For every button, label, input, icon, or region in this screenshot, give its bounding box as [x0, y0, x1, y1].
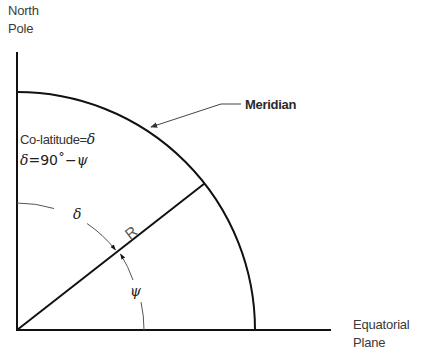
- colatitude-label: Co-latitude=δ: [20, 131, 95, 147]
- angle-delta-label: δ: [73, 206, 81, 222]
- equation-psi-symbol: ψ: [77, 152, 89, 168]
- radius-label: R: [121, 222, 140, 242]
- meridian-label: Meridian: [245, 97, 296, 112]
- delta-arc-lower: [87, 224, 116, 251]
- colatitude-symbol: δ: [87, 131, 95, 147]
- north-pole-label-2: Pole: [8, 21, 33, 36]
- north-pole-label: North: [8, 3, 39, 18]
- colatitude-text: Co-latitude=: [20, 132, 87, 147]
- radius-line: [17, 184, 205, 331]
- angle-psi-label: ψ: [130, 283, 142, 299]
- psi-arc-upper: [121, 254, 134, 280]
- equation-delta-symbol: δ: [20, 152, 28, 168]
- psi-arc-lower: [141, 302, 144, 330]
- equatorial-plane-label: Equatorial: [353, 317, 410, 332]
- equation-rest: =90˚−: [28, 152, 76, 168]
- meridian-leader-line: [151, 104, 241, 127]
- delta-equation: δ=90˚−ψ: [20, 152, 89, 168]
- delta-arc-top: [17, 203, 54, 209]
- colatitude-diagram: North Pole Meridian Co-latitude=δ δ=90˚−…: [0, 0, 430, 358]
- equatorial-plane-label-2: Plane: [353, 335, 385, 350]
